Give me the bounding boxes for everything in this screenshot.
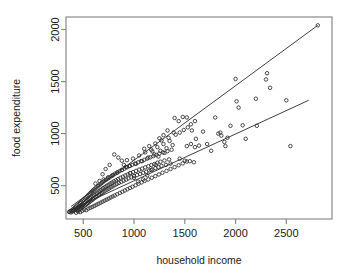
x-tick-label-500: 500 [74,227,92,239]
y-tick-label-1500: 1500 [49,69,61,93]
x-tick-label-1000: 1000 [122,227,146,239]
x-axis-title: household income [156,254,241,266]
y-tick-label-2000: 2000 [49,17,61,41]
x-tick-label-1500: 1500 [173,227,197,239]
y-axis-title: food expenditure [10,79,22,157]
y-tick-label-1000: 1000 [49,121,61,145]
x-tick-label-2500: 2500 [274,227,298,239]
scatter-plot-figure: 5001000150020002500 500100015002000 hous… [0,0,343,277]
y-tick-label-500: 500 [49,177,61,195]
plot-canvas: 5001000150020002500 500100015002000 hous… [0,0,343,277]
x-tick-label-2000: 2000 [223,227,247,239]
